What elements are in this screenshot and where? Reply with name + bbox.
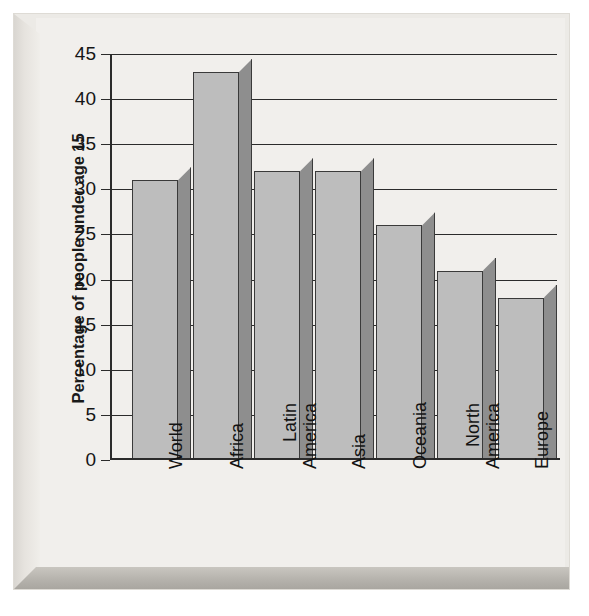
gridline <box>110 54 557 55</box>
bar-side-face <box>361 158 374 460</box>
y-axis-tick <box>101 144 110 145</box>
x-axis-category-label: Europe <box>532 411 552 469</box>
y-axis-tick <box>101 415 110 416</box>
category-label-line: America <box>300 403 320 469</box>
category-label-line: Asia <box>349 434 369 469</box>
y-axis-tick-label: 35 <box>75 133 96 155</box>
bar-top-face <box>544 285 557 298</box>
bar-top-face <box>178 167 191 180</box>
y-axis-tick <box>101 280 110 281</box>
chart-page: Percentage of people under age 15 051015… <box>0 0 589 616</box>
gridline <box>110 144 557 145</box>
category-label-line: America <box>483 403 503 469</box>
bar <box>315 158 361 460</box>
category-label-line: Latin <box>280 403 300 469</box>
y-axis-tick <box>101 460 110 461</box>
y-axis-tick <box>101 99 110 100</box>
y-axis-tick-label: 20 <box>75 269 96 291</box>
y-axis-tick-label: 10 <box>75 359 96 381</box>
bar-top-face <box>483 258 496 271</box>
y-axis-tick <box>101 54 110 55</box>
y-axis-tick-label: 40 <box>75 88 96 110</box>
bar-front-face <box>193 72 239 460</box>
bar-side-face <box>178 167 191 460</box>
bar-front-face <box>315 171 361 460</box>
bar-chart: Percentage of people under age 15 051015… <box>14 14 569 589</box>
category-label-line: North <box>463 403 483 469</box>
y-axis-tick-label: 45 <box>75 43 96 65</box>
category-label-line: Oceania <box>410 402 430 469</box>
category-label-line: World <box>166 422 186 469</box>
y-axis-tick-label: 0 <box>85 449 96 471</box>
gridline <box>110 99 557 100</box>
category-label-line: Africa <box>227 423 247 469</box>
y-axis-tick-label: 15 <box>75 314 96 336</box>
bar-side-face <box>239 59 252 460</box>
bar-top-face <box>422 212 435 225</box>
bar-top-face <box>300 158 313 171</box>
bar-front-face <box>132 180 178 460</box>
bar-top-face <box>361 158 374 171</box>
y-axis-tick <box>101 325 110 326</box>
y-axis-tick-label: 25 <box>75 223 96 245</box>
plot-area: 051015202530354045 <box>110 54 557 460</box>
bar-top-face <box>239 59 252 72</box>
category-label-line: Europe <box>532 411 552 469</box>
y-axis-line <box>110 54 112 460</box>
y-axis-tick <box>101 370 110 371</box>
y-axis-tick-label: 5 <box>85 404 96 426</box>
bar <box>193 59 239 460</box>
x-axis-category-label: LatinAmerica <box>280 403 320 469</box>
y-axis-tick <box>101 234 110 235</box>
y-axis-tick-label: 30 <box>75 178 96 200</box>
x-axis-category-label: World <box>166 422 186 469</box>
x-axis-category-label: Asia <box>349 434 369 469</box>
y-axis-tick <box>101 189 110 190</box>
x-axis-category-label: NorthAmerica <box>463 403 503 469</box>
bar <box>132 167 178 460</box>
x-axis-category-label: Oceania <box>410 402 430 469</box>
x-axis-category-label: Africa <box>227 423 247 469</box>
